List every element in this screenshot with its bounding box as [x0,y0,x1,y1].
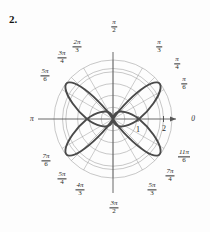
radial-tick-label-2: 2 [162,124,166,133]
angle-label-pi: π [30,115,34,123]
angle-label-pi-4: π4 [174,56,180,71]
angle-label-pi-3: π3 [156,39,162,54]
angle-label-2pi-3: 2π3 [72,39,81,54]
axis-arrow-icon [170,117,176,122]
angle-label-7pi-4: 7π4 [165,168,174,183]
angle-label-pi-2: π2 [111,19,117,34]
angle-label-3pi-4: 3π4 [57,50,66,65]
angle-label-11pi-6: 11π6 [178,149,190,164]
angle-label-5pi-4: 5π4 [57,171,66,186]
angle-label-pi-6: π6 [181,76,187,91]
angle-label-5pi-6: 5π6 [40,68,49,83]
figure-page: 2. [0,0,210,232]
angle-label-3pi-2: 3π2 [109,200,118,215]
angle-label-5pi-3: 5π3 [147,182,156,197]
radial-tick-label-1: 1 [136,125,140,134]
angle-label-4pi-3: 4π3 [75,182,84,197]
angle-label-7pi-6: 7π6 [41,153,50,168]
angle-label-0: 0 [191,115,195,123]
